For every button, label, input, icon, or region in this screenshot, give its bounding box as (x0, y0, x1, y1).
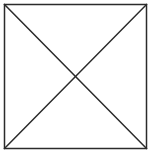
crossed-box-figure (0, 0, 153, 155)
image-canvas (0, 0, 153, 155)
